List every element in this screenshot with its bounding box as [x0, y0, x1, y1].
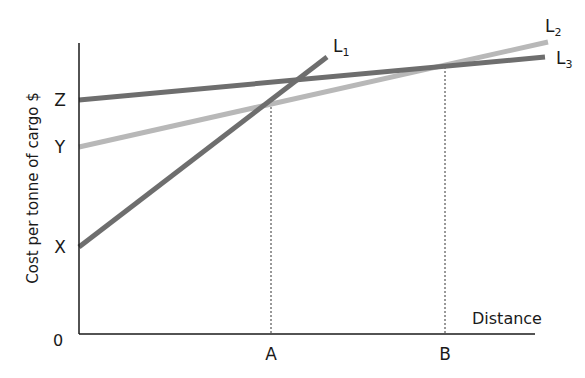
- transport-cost-chart: Cost per tonne of cargo $ Distance 0 ZYX…: [0, 0, 585, 378]
- y-tick-z: Z: [54, 90, 66, 110]
- origin-label: 0: [53, 331, 63, 350]
- y-tick-x: X: [54, 237, 66, 257]
- x-tick-b: B: [439, 344, 451, 364]
- x-axis-title: Distance: [472, 309, 542, 328]
- x-tick-a: A: [265, 344, 277, 364]
- y-axis-title: Cost per tonne of cargo $: [24, 92, 42, 283]
- series-label-l1: L1: [333, 36, 349, 59]
- series-label-l2: L2: [545, 16, 561, 39]
- series-label-l3: L3: [556, 48, 572, 71]
- y-tick-y: Y: [54, 137, 66, 157]
- x-tick-labels: AB: [265, 344, 451, 364]
- series-lines: [79, 42, 548, 247]
- series-line-l1: [79, 57, 327, 247]
- y-tick-labels: ZYX: [54, 90, 66, 257]
